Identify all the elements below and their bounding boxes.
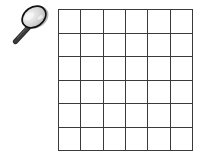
grid-cell[interactable] <box>81 80 103 104</box>
magnifier-label: Magnifying glass <box>54 0 55 1</box>
grid-cell[interactable] <box>148 10 170 34</box>
grid-cell[interactable] <box>125 127 147 151</box>
table-row[interactable] <box>59 127 193 151</box>
grid-cell[interactable] <box>81 104 103 128</box>
grid-cell[interactable] <box>170 10 192 34</box>
grid-cell[interactable] <box>59 80 81 104</box>
grid-cell[interactable] <box>59 57 81 81</box>
grid-cell[interactable] <box>59 104 81 128</box>
grid-cell[interactable] <box>81 10 103 34</box>
grid-cell[interactable] <box>103 33 125 57</box>
magnifier-handle <box>16 28 29 42</box>
grid-cell[interactable] <box>148 104 170 128</box>
grid-cell[interactable] <box>103 57 125 81</box>
grid-cell[interactable] <box>125 80 147 104</box>
table-row[interactable] <box>59 80 193 104</box>
grid-body <box>59 10 193 151</box>
grid-cell[interactable] <box>59 127 81 151</box>
grid-cell[interactable] <box>148 57 170 81</box>
table-row[interactable] <box>59 57 193 81</box>
magnifier-lens-group <box>17 0 53 34</box>
grid-cell[interactable] <box>125 33 147 57</box>
grid-cell[interactable] <box>103 104 125 128</box>
magnifier-handle-group <box>16 27 29 42</box>
grid-cell[interactable] <box>125 57 147 81</box>
grid-cell[interactable] <box>125 10 147 34</box>
grid-cell[interactable] <box>59 33 81 57</box>
grid-cell[interactable] <box>103 10 125 34</box>
grid-cell[interactable] <box>81 57 103 81</box>
table-row[interactable] <box>59 10 193 34</box>
grid-cell[interactable] <box>81 33 103 57</box>
scene-canvas: Magnifying glass <box>0 0 203 160</box>
grid-cell[interactable] <box>148 127 170 151</box>
grid-cell[interactable] <box>170 127 192 151</box>
empty-square-grid[interactable] <box>58 9 193 151</box>
grid-cell[interactable] <box>170 33 192 57</box>
grid-cell[interactable] <box>125 104 147 128</box>
grid-cell[interactable] <box>170 104 192 128</box>
grid-cell[interactable] <box>170 80 192 104</box>
grid-cell[interactable] <box>148 33 170 57</box>
grid-cell[interactable] <box>103 80 125 104</box>
magnifying-glass-icon[interactable]: Magnifying glass <box>8 0 54 48</box>
grid-cell[interactable] <box>148 80 170 104</box>
table-row[interactable] <box>59 104 193 128</box>
grid-cell[interactable] <box>103 127 125 151</box>
grid-cell[interactable] <box>59 10 81 34</box>
grid-cell[interactable] <box>170 57 192 81</box>
table-row[interactable] <box>59 33 193 57</box>
grid-cell[interactable] <box>81 127 103 151</box>
